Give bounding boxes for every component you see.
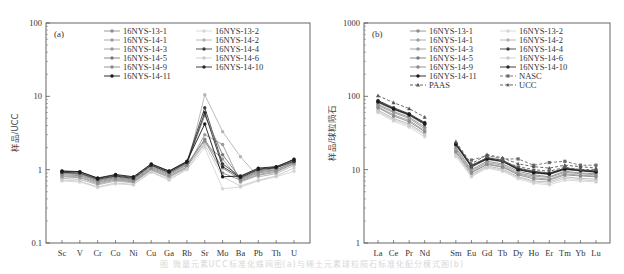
x-tick-label: Mo (217, 248, 229, 258)
x-tick-label: Sr (201, 248, 209, 258)
x-tick-label: Sm (450, 248, 462, 258)
y-tick-label: 100 (347, 91, 360, 101)
svg-text:★: ★ (531, 166, 536, 173)
y-tick-label: 0.1 (31, 238, 42, 248)
panel-label: (a) (54, 29, 64, 39)
y-tick-label: 10 (352, 165, 361, 175)
x-tick-label: Nd (420, 248, 431, 258)
svg-text:★: ★ (500, 157, 505, 164)
x-tick-label: Yb (575, 248, 585, 258)
x-tick-label: Th (271, 248, 281, 258)
legend-item: 16NYS-14-10 (196, 62, 263, 72)
svg-text:16NYS-14-10: 16NYS-14-10 (215, 62, 263, 72)
plot-frame (46, 23, 310, 243)
x-tick-label: Gd (482, 248, 493, 258)
x-tick-label: Co (111, 248, 121, 258)
x-tick-label: Eu (467, 248, 477, 258)
x-tick-label: Rb (182, 248, 192, 258)
svg-text:★: ★ (547, 167, 552, 174)
x-tick-label: Pb (254, 248, 263, 258)
x-tick-label: Dy (513, 248, 524, 258)
x-tick-label: Tm (559, 248, 571, 258)
x-tick-label: Pr (405, 248, 413, 258)
svg-text:★: ★ (578, 166, 583, 173)
svg-text:★: ★ (515, 163, 520, 170)
panel-label: (b) (372, 29, 383, 39)
y-axis-label: 样品/球粒陨石 (327, 105, 337, 162)
x-tick-label: Ho (529, 248, 539, 258)
legend: 16NYS-13-116NYS-14-116NYS-14-316NYS-14-5… (104, 26, 263, 81)
y-tick-label: 1 (356, 238, 360, 248)
y-tick-label: 10 (34, 91, 43, 101)
x-tick-label: Er (545, 248, 553, 258)
x-tick-label: Cu (146, 248, 157, 258)
chart-a-trace-elements: 0.1110100样品/UCC(a)ScVCrCoNiCuGaRbSrMoBaP… (10, 18, 310, 258)
x-tick-label: Tb (498, 248, 507, 258)
x-tick-label: Cr (93, 248, 102, 258)
svg-text:★: ★ (469, 163, 474, 170)
x-tick-label: Ce (389, 248, 399, 258)
series-16nys-13-1 (60, 138, 295, 183)
x-tick-label: Lu (591, 248, 601, 258)
svg-text:★: ★ (484, 153, 489, 160)
x-tick-label: U (291, 248, 297, 258)
figure-caption: 图 微量元素UCC标准化蛛网图(a)与稀土元素球粒陨石标准化配分模式图(b) (0, 258, 624, 269)
plot-frame (364, 23, 610, 243)
y-tick-label: 1000 (343, 18, 360, 28)
legend-item: ★UCC (500, 80, 537, 90)
x-tick-label: Sc (58, 248, 67, 258)
legend: 16NYS-13-116NYS-14-116NYS-14-316NYS-14-5… (410, 26, 567, 90)
x-tick-label: V (77, 248, 84, 258)
svg-text:★: ★ (593, 166, 598, 173)
y-tick-label: 1 (38, 165, 42, 175)
svg-text:UCC: UCC (519, 80, 537, 90)
x-tick-label: Ga (164, 248, 174, 258)
legend-item: PAAS (410, 80, 450, 90)
legend-item: 16NYS-14-11 (104, 71, 171, 81)
x-tick-label: La (374, 248, 383, 258)
x-tick-label: Ba (236, 248, 246, 258)
chart-b-ree: 1101001000样品/球粒陨石(b)LaCePrNdSmEuGdTbDyHo… (327, 18, 610, 258)
x-tick-label: Ni (129, 248, 138, 258)
svg-text:16NYS-14-11: 16NYS-14-11 (123, 71, 171, 81)
y-axis-label: 样品/UCC (10, 113, 20, 152)
svg-text:PAAS: PAAS (429, 80, 450, 90)
svg-text:★: ★ (505, 81, 510, 88)
svg-text:★: ★ (562, 163, 567, 170)
y-tick-label: 100 (29, 18, 42, 28)
figure: 0.1110100样品/UCC(a)ScVCrCoNiCuGaRbSrMoBaP… (0, 0, 624, 274)
